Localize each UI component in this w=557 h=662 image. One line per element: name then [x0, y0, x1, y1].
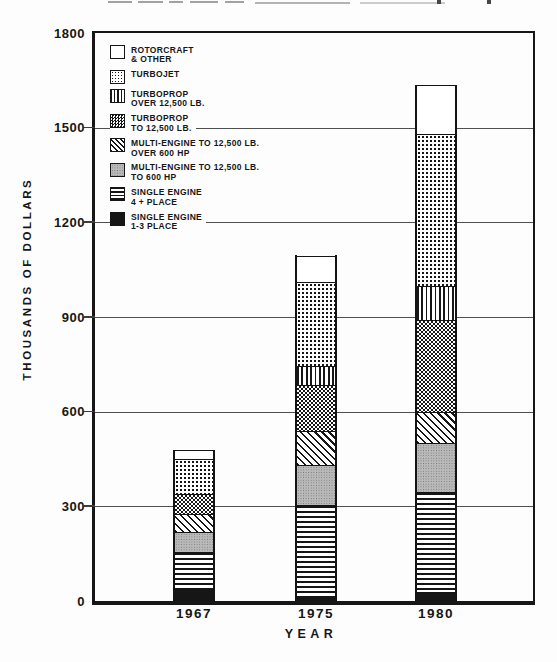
y-tick-mark — [84, 127, 95, 129]
bar-segment-blank — [297, 256, 335, 283]
cropped-title-fragment — [108, 1, 132, 3]
bar-segment-vertical-lines — [297, 366, 335, 385]
plot-inner: ROTORCRAFT& OTHERTURBOJETTURBOPROPOVER 1… — [95, 33, 533, 601]
bar-segment-blank — [417, 85, 455, 134]
legend-label: TURBOJET — [131, 70, 180, 80]
x-tick-label-1967: 1967 — [154, 606, 234, 621]
y-tick-label-1200: 1200 — [25, 215, 85, 230]
legend-item: TURBOPROPTO 12,500 LB. — [110, 114, 196, 134]
bar-segment-blank — [175, 450, 213, 459]
stacked-bar-1980 — [415, 85, 457, 601]
cropped-title-fragment — [487, 0, 491, 4]
x-axis-title: YEAR — [251, 627, 371, 641]
x-tick-label-1975: 1975 — [276, 606, 356, 621]
y-tick-label-900: 900 — [25, 310, 85, 325]
cropped-title-fragment — [437, 0, 441, 4]
y-tick-label-1800: 1800 — [25, 26, 85, 41]
legend-label: MULTI-ENGINE TO 12,500 LB.OVER 600 HP — [131, 138, 259, 158]
y-tick-label-300: 300 — [25, 499, 85, 514]
y-tick-mark — [84, 316, 95, 318]
cropped-title-fragment — [255, 2, 350, 4]
bar-segment-solid-black — [297, 596, 335, 601]
bar-segment-checker — [297, 385, 335, 431]
x-tick-label-1980: 1980 — [396, 606, 476, 621]
bar-segment-dot-grid — [297, 282, 335, 366]
bar-segment-solid-black — [175, 588, 213, 601]
bar-segment-diagonal-lines — [297, 431, 335, 466]
legend-swatch-blank — [110, 45, 125, 59]
bar-segment-dot-grid — [417, 134, 455, 285]
bar-segment-stipple — [175, 532, 213, 553]
legend-swatch-diagonal-lines — [110, 138, 125, 152]
cropped-title-fragment — [190, 1, 218, 3]
stacked-bar-1975 — [295, 255, 337, 601]
bar-segment-solid-black — [417, 592, 455, 601]
bar-segment-horizontal-lines — [297, 505, 335, 597]
y-tick-label-1500: 1500 — [25, 120, 85, 135]
bar-segment-stipple — [417, 443, 455, 492]
bar-segment-checker — [417, 320, 455, 412]
legend-item: SINGLE ENGINE4 + PLACE — [110, 187, 206, 207]
legend-item: TURBOJET — [110, 70, 184, 85]
legend-item: SINGLE ENGINE1-3 PLACE — [110, 212, 206, 232]
legend-label: TURBOPROPOVER 12,500 LB. — [131, 89, 205, 109]
bar-segment-diagonal-lines — [175, 514, 213, 531]
bar-segment-vertical-lines — [417, 286, 455, 321]
cropped-title-fragment — [225, 1, 244, 3]
legend-label: SINGLE ENGINE1-3 PLACE — [131, 212, 202, 232]
y-tick-label-0: 0 — [25, 594, 85, 609]
bar-segment-diagonal-lines — [417, 412, 455, 444]
y-tick-mark — [84, 411, 95, 413]
legend-item: ROTORCRAFT& OTHER — [110, 45, 198, 65]
legend-swatch-solid-black — [110, 212, 125, 226]
cropped-title-fragment — [138, 1, 163, 3]
y-tick-mark — [84, 505, 95, 507]
cropped-title-fragment — [169, 1, 183, 3]
legend-item: MULTI-ENGINE TO 12,500 LB.OVER 600 HP — [110, 138, 263, 158]
stacked-bar-1967 — [173, 450, 215, 601]
legend: ROTORCRAFT& OTHERTURBOJETTURBOPROPOVER 1… — [110, 45, 263, 237]
figure: THOUSANDS OF DOLLARS ROTORCRAFT& OTHERTU… — [0, 0, 557, 662]
bar-segment-checker — [175, 494, 213, 515]
legend-label: SINGLE ENGINE4 + PLACE — [131, 187, 202, 207]
bar-segment-stipple — [297, 465, 335, 504]
bar-segment-dot-grid — [175, 459, 213, 494]
plot-frame: ROTORCRAFT& OTHERTURBOJETTURBOPROPOVER 1… — [92, 31, 535, 605]
legend-label: ROTORCRAFT& OTHER — [131, 45, 194, 65]
legend-item: TURBOPROPOVER 12,500 LB. — [110, 89, 209, 109]
y-tick-mark — [84, 221, 95, 223]
legend-swatch-horizontal-lines — [110, 187, 125, 201]
y-tick-label-600: 600 — [25, 404, 85, 419]
legend-swatch-checker — [110, 114, 125, 128]
legend-swatch-stipple — [110, 163, 125, 177]
bar-segment-horizontal-lines — [417, 492, 455, 591]
legend-swatch-dot-grid — [110, 70, 125, 84]
legend-swatch-vertical-lines — [110, 89, 125, 103]
legend-label: MULTI-ENGINE TO 12,500 LB.TO 600 HP — [131, 163, 259, 183]
legend-label: TURBOPROPTO 12,500 LB. — [131, 114, 192, 134]
y-axis-title: THOUSANDS OF DOLLARS — [21, 178, 33, 381]
legend-item: MULTI-ENGINE TO 12,500 LB.TO 600 HP — [110, 163, 263, 183]
cropped-title-fragment — [360, 2, 445, 4]
bar-segment-horizontal-lines — [175, 552, 213, 588]
